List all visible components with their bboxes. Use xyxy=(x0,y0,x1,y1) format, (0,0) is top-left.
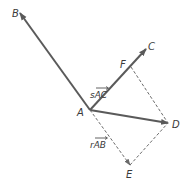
vector-AB xyxy=(20,13,90,110)
svg-text:sAC: sAC xyxy=(90,90,108,100)
line-ED-dashed xyxy=(130,123,168,165)
vector-label-rAB: rAB xyxy=(90,137,108,151)
label-C: C xyxy=(148,41,155,52)
vector-label-sAC: sAC xyxy=(90,87,109,101)
label-F: F xyxy=(120,59,126,70)
vector-diagram: B C F A D E sAC rAB xyxy=(0,0,191,189)
label-D: D xyxy=(172,119,180,130)
label-A: A xyxy=(76,107,84,118)
line-FD-dashed xyxy=(131,67,168,123)
vector-AC-text: AC xyxy=(94,90,108,100)
vector-AD xyxy=(90,110,168,123)
vector-AE-dashed xyxy=(90,110,130,165)
svg-text:rAB: rAB xyxy=(90,140,106,150)
vector-AC xyxy=(90,49,146,110)
label-E: E xyxy=(126,169,133,180)
vector-AB-text: AB xyxy=(93,140,106,150)
label-B: B xyxy=(12,8,19,19)
